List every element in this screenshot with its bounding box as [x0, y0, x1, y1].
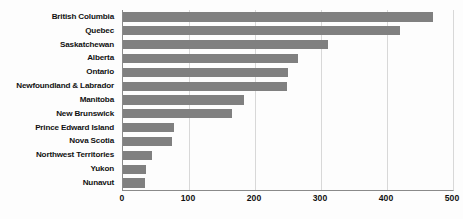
category-label: Nunavut [0, 179, 118, 187]
bar [123, 137, 172, 146]
bar [123, 40, 328, 49]
bar [123, 95, 244, 104]
bar-row [123, 123, 453, 132]
plot-area [122, 10, 454, 191]
category-label: Alberta [0, 54, 118, 62]
bar [123, 109, 232, 118]
category-label: Newfoundland & Labrador [0, 82, 118, 90]
bar [123, 178, 145, 187]
category-label: Nova Scotia [0, 137, 118, 145]
x-tick-label: 200 [247, 193, 261, 203]
bar-row [123, 109, 453, 118]
bar-row [123, 95, 453, 104]
bar-series [123, 10, 453, 190]
category-label: Quebec [0, 27, 118, 35]
bar-row [123, 137, 453, 146]
category-label: Ontario [0, 68, 118, 76]
bar [123, 82, 287, 91]
category-label: New Brunswick [0, 110, 118, 118]
category-label: Manitoba [0, 96, 118, 104]
bar [123, 165, 146, 174]
category-label: Prince Edward Island [0, 124, 118, 132]
x-axis: 0100200300400500 [122, 193, 452, 211]
bar-row [123, 26, 453, 35]
category-label: Northwest Territories [0, 151, 118, 159]
bar-row [123, 165, 453, 174]
x-tick-label: 300 [313, 193, 327, 203]
bar-row [123, 54, 453, 63]
bar [123, 68, 288, 77]
gridline [453, 10, 454, 190]
x-tick-label: 0 [120, 193, 125, 203]
bar-row [123, 151, 453, 160]
bar [123, 26, 400, 35]
category-label: Saskatchewan [0, 41, 118, 49]
category-axis: British ColumbiaQuebecSaskatchewanAlbert… [0, 10, 118, 190]
bar-row [123, 178, 453, 187]
bar-chart: British ColumbiaQuebecSaskatchewanAlbert… [0, 0, 463, 219]
bar [123, 123, 174, 132]
bar-row [123, 82, 453, 91]
x-tick-label: 400 [379, 193, 393, 203]
category-label: British Columbia [0, 13, 118, 21]
bar-row [123, 68, 453, 77]
x-tick-label: 500 [445, 193, 459, 203]
bar-row [123, 40, 453, 49]
category-label: Yukon [0, 165, 118, 173]
bar-row [123, 12, 453, 21]
bar [123, 151, 152, 160]
bar [123, 54, 298, 63]
x-tick-label: 100 [181, 193, 195, 203]
bar [123, 12, 433, 21]
